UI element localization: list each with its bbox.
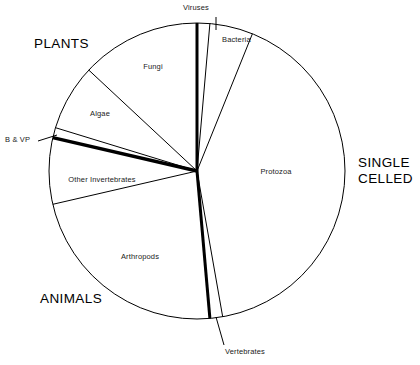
group-label-plants: PLANTS	[34, 36, 89, 52]
group-label-single-celled-line2: CELLED	[358, 171, 413, 186]
leader-line-vertebrates	[216, 317, 224, 345]
slice-label-fungi: Fungi	[143, 63, 163, 72]
group-label-single-celled-line1: SINGLE	[358, 155, 410, 170]
slice-label-b-and-vp: B & VP	[5, 136, 30, 145]
slice-label-algae: Algae	[90, 110, 110, 119]
slice-label-viruses: Viruses	[183, 4, 209, 13]
slice-label-protozoa: Protozoa	[260, 168, 291, 177]
pie-chart-graphic	[0, 0, 420, 365]
slice-label-other-invertebrates: Other Invertebrates	[68, 176, 135, 185]
group-label-single-celled: SINGLECELLED	[358, 155, 413, 188]
slice-label-arthropods: Arthropods	[121, 253, 159, 262]
slice-label-vertebrates: Vertebrates	[225, 348, 265, 357]
pie-chart-figure: Viruses Bacteria Protozoa Vertebrates Ar…	[0, 0, 420, 365]
slice-label-bacteria: Bacteria	[222, 36, 251, 45]
group-label-animals: ANIMALS	[40, 291, 102, 307]
